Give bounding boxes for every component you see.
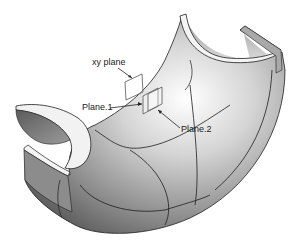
plane2-label: Plane.2: [181, 125, 212, 134]
elbow-surface-drawing: [0, 0, 301, 248]
plane1-label: Plane.1: [82, 103, 113, 112]
diagram-canvas: xy plane Plane.1 Plane.2: [0, 0, 301, 248]
xy-plane-label: xy plane: [92, 58, 126, 67]
